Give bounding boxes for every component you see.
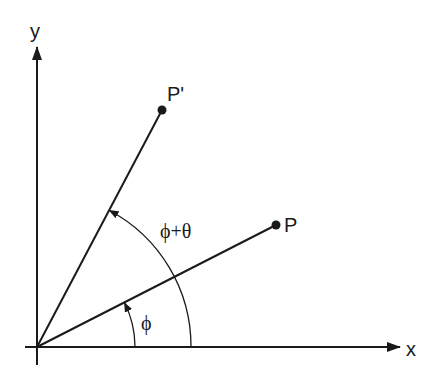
point-P-label: P	[284, 214, 297, 236]
phi-angle-label: ϕ	[141, 312, 152, 335]
rotation-diagram: x y P P' ϕ ϕ+θ	[0, 0, 444, 378]
y-axis-label: y	[30, 20, 40, 42]
point-P	[272, 221, 281, 230]
point-P-prime-label: P'	[167, 83, 184, 105]
phi-angle-arc	[125, 303, 136, 347]
point-P-prime	[158, 106, 167, 115]
ray-origin-to-P	[37, 225, 276, 347]
phi-plus-theta-angle-label: ϕ+θ	[160, 220, 191, 243]
x-axis-label: x	[406, 338, 416, 360]
